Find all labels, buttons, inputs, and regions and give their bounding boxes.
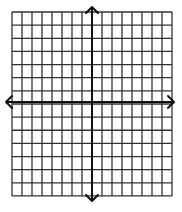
- coordinate-plane: [0, 0, 182, 212]
